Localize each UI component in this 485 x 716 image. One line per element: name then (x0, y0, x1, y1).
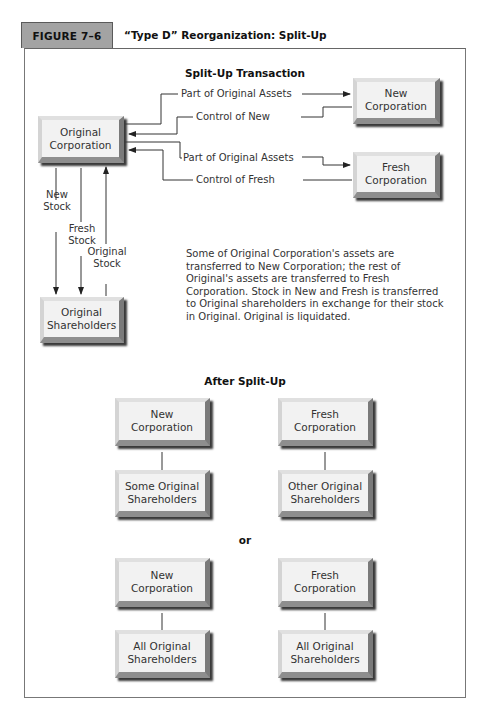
box-label: Original Corporation (42, 126, 119, 152)
box-label: New Corporation (119, 408, 205, 434)
some-original-shareholders-box: Some Original Shareholders (115, 470, 210, 517)
box-label: Original Shareholders (44, 306, 119, 332)
label-fresh-stock: Fresh Stock (66, 223, 98, 247)
after-split-up-heading: After Split-Up (160, 375, 330, 387)
or-label: or (200, 534, 290, 546)
all-original-shareholders-right-box: All Original Shareholders (278, 630, 373, 678)
box-label: Fresh Corporation (282, 408, 368, 434)
label-original-stock: Original Stock (87, 246, 127, 270)
other-original-shareholders-box: Other Original Shareholders (278, 470, 373, 517)
after-new-corporation-box: New Corporation (115, 398, 210, 446)
all-original-shareholders-left-box: All Original Shareholders (115, 630, 210, 678)
label-part-assets-fresh: Part of Original Assets (183, 152, 294, 164)
flow-line-control-new (301, 107, 352, 117)
alt-new-corporation-box: New Corporation (115, 558, 210, 607)
box-label: All Original Shareholders (282, 640, 368, 666)
label-control-fresh: Control of Fresh (196, 174, 275, 186)
alt-fresh-corporation-box: Fresh Corporation (278, 558, 373, 607)
arrow-assets-to-fresh (302, 157, 350, 165)
box-label: Some Original Shareholders (119, 480, 205, 506)
transaction-description: Some of Original Corporation's assets ar… (186, 248, 446, 323)
box-label: All Original Shareholders (119, 640, 205, 666)
box-label: Fresh Corporation (357, 161, 435, 187)
split-up-transaction-heading: Split-Up Transaction (160, 67, 330, 79)
flow-line-assets-new (125, 94, 178, 124)
original-shareholders-box: Original Shareholders (40, 297, 124, 343)
fresh-corporation-box: Fresh Corporation (353, 152, 440, 198)
label-new-stock: New Stock (43, 189, 71, 213)
box-label: Fresh Corporation (282, 569, 368, 595)
box-label: New Corporation (119, 569, 205, 595)
after-fresh-corporation-box: Fresh Corporation (278, 398, 373, 446)
original-corporation-box: Original Corporation (38, 116, 124, 163)
label-part-assets-new: Part of Original Assets (181, 88, 292, 100)
new-corporation-box: New Corporation (353, 78, 440, 124)
box-label: Other Original Shareholders (282, 480, 368, 506)
box-label: New Corporation (357, 87, 435, 113)
label-control-new: Control of New (196, 111, 270, 123)
